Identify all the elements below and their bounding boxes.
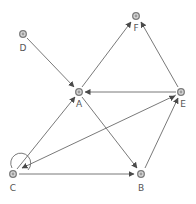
edge-C-E [40, 96, 175, 160]
node-A[interactable]: A [76, 89, 83, 109]
node-label-B: B [138, 183, 144, 193]
edges [11, 22, 178, 174]
edge-D-A [27, 38, 74, 87]
node-label-E: E [180, 99, 186, 109]
node-D[interactable]: D [20, 31, 27, 53]
edge-B-E [145, 98, 178, 168]
graph-canvas: D F A E C B [0, 0, 196, 204]
node-E[interactable]: E [178, 89, 186, 109]
node-label-D: D [20, 43, 27, 53]
edge-A-F [82, 22, 131, 87]
edge-E-C [22, 95, 176, 168]
edge-E-F [141, 22, 178, 87]
node-label-C: C [10, 183, 16, 193]
self-loop-C [11, 153, 31, 170]
edge-A-B [82, 97, 137, 168]
node-F[interactable]: F [133, 13, 140, 33]
node-B[interactable]: B [138, 171, 145, 193]
node-label-F: F [133, 23, 138, 33]
node-C[interactable]: C [10, 171, 17, 193]
node-label-A: A [76, 99, 83, 109]
edge-C-A [17, 97, 75, 169]
